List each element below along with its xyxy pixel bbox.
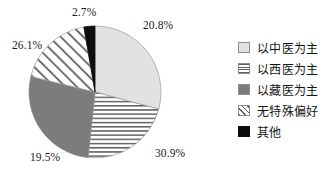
- light-gray-swatch-icon: [238, 42, 250, 53]
- pie-value-label-1: 30.9%: [155, 147, 185, 159]
- legend-label-4: 其他: [257, 123, 282, 141]
- legend-item-4: 其他: [238, 121, 333, 142]
- legend-item-3: 无特殊偏好: [238, 100, 333, 121]
- legend-label-3: 无特殊偏好: [257, 102, 319, 120]
- pie-value-label-0: 20.8%: [143, 19, 173, 31]
- pie-value-label-2: 19.5%: [30, 151, 60, 163]
- black-swatch-icon: [238, 126, 250, 137]
- legend-label-2: 以藏医为主: [257, 81, 319, 99]
- pie-value-label-4: 2.7%: [72, 6, 96, 18]
- legend-item-0: 以中医为主: [238, 37, 333, 58]
- medium-gray-swatch-icon: [238, 84, 250, 95]
- legend-label-0: 以中医为主: [257, 39, 319, 57]
- diagonal-hatch-swatch-icon: [238, 105, 250, 116]
- legend-item-2: 以藏医为主: [238, 79, 333, 100]
- pie-chart-plot-area: 20.8% 30.9% 19.5% 26.1% 2.7%: [0, 0, 232, 179]
- chart-legend: 以中医为主 以西医为主 以藏医为主 无特殊偏好 其他: [238, 37, 333, 142]
- pie-chart-figure: 20.8% 30.9% 19.5% 26.1% 2.7% 以中医为主 以西医为主…: [0, 0, 333, 179]
- legend-label-1: 以西医为主: [257, 60, 319, 78]
- horizontal-lines-swatch-icon: [238, 63, 250, 74]
- pie-value-label-3: 26.1%: [12, 39, 42, 51]
- legend-item-1: 以西医为主: [238, 58, 333, 79]
